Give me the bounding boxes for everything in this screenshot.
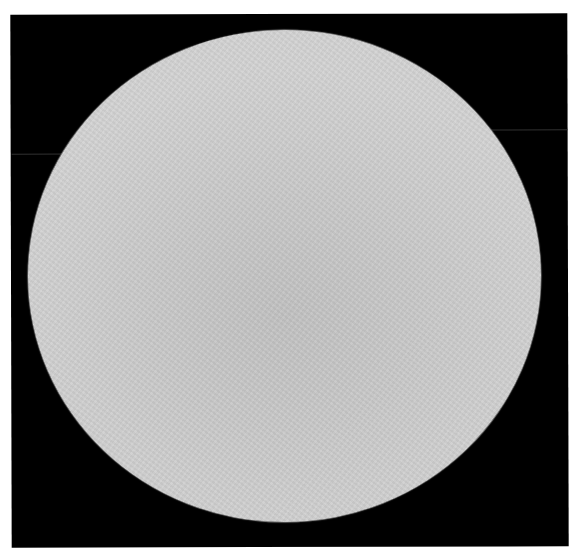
gray-disc <box>27 29 541 522</box>
disc-texture <box>27 29 541 522</box>
faint-streak-right <box>491 129 568 130</box>
black-background-frame <box>10 13 568 547</box>
